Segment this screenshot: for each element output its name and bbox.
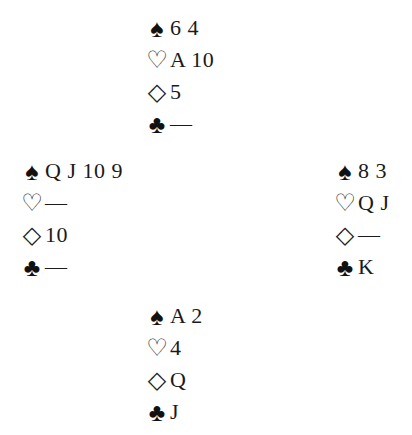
west-diamonds-cards: 10 (45, 224, 68, 246)
north-spades-cards: 6 4 (170, 17, 199, 39)
north-hand: ♠ 6 4 ♡ A 10 ◇ 5 ♣ — (145, 12, 214, 140)
south-spades-row: ♠ A 2 (145, 300, 203, 332)
club-icon: ♣ (145, 400, 169, 425)
east-hand: ♠ 8 3 ♡ Q J ◇ — ♣ K (333, 155, 389, 283)
west-hearts-cards: — (45, 192, 68, 214)
east-clubs-row: ♣ K (333, 251, 389, 283)
heart-icon: ♡ (333, 191, 357, 215)
west-clubs-row: ♣ — (20, 251, 123, 283)
south-hearts-cards: 4 (170, 337, 182, 359)
diamond-icon: ◇ (145, 80, 169, 104)
south-spades-cards: A 2 (170, 305, 203, 327)
diamond-icon: ◇ (20, 223, 44, 247)
east-spades-cards: 8 3 (358, 160, 387, 182)
west-spades-row: ♠ Q J 10 9 (20, 155, 123, 187)
south-clubs-row: ♣ J (145, 396, 203, 428)
north-diamonds-row: ◇ 5 (145, 76, 214, 108)
spade-icon: ♠ (145, 304, 169, 329)
south-diamonds-row: ◇ Q (145, 364, 203, 396)
north-hearts-cards: A 10 (170, 49, 214, 71)
east-diamonds-cards: — (358, 224, 381, 246)
east-clubs-cards: K (358, 256, 374, 278)
north-clubs-cards: — (170, 113, 193, 135)
heart-icon: ♡ (145, 336, 169, 360)
club-icon: ♣ (20, 255, 44, 280)
spade-icon: ♠ (333, 159, 357, 184)
east-hearts-row: ♡ Q J (333, 187, 389, 219)
west-clubs-cards: — (45, 256, 68, 278)
west-spades-cards: Q J 10 9 (45, 160, 123, 182)
north-spades-row: ♠ 6 4 (145, 12, 214, 44)
club-icon: ♣ (333, 255, 357, 280)
east-spades-row: ♠ 8 3 (333, 155, 389, 187)
west-diamonds-row: ◇ 10 (20, 219, 123, 251)
diamond-icon: ◇ (333, 223, 357, 247)
west-hearts-row: ♡ — (20, 187, 123, 219)
heart-icon: ♡ (145, 48, 169, 72)
east-diamonds-row: ◇ — (333, 219, 389, 251)
spade-icon: ♠ (145, 16, 169, 41)
spade-icon: ♠ (20, 159, 44, 184)
club-icon: ♣ (145, 112, 169, 137)
south-diamonds-cards: Q (170, 369, 186, 391)
north-hearts-row: ♡ A 10 (145, 44, 214, 76)
south-clubs-cards: J (170, 401, 179, 423)
north-diamonds-cards: 5 (170, 81, 182, 103)
east-hearts-cards: Q J (358, 192, 389, 214)
south-hearts-row: ♡ 4 (145, 332, 203, 364)
heart-icon: ♡ (20, 191, 44, 215)
west-hand: ♠ Q J 10 9 ♡ — ◇ 10 ♣ — (20, 155, 123, 283)
south-hand: ♠ A 2 ♡ 4 ◇ Q ♣ J (145, 300, 203, 428)
diamond-icon: ◇ (145, 368, 169, 392)
north-clubs-row: ♣ — (145, 108, 214, 140)
